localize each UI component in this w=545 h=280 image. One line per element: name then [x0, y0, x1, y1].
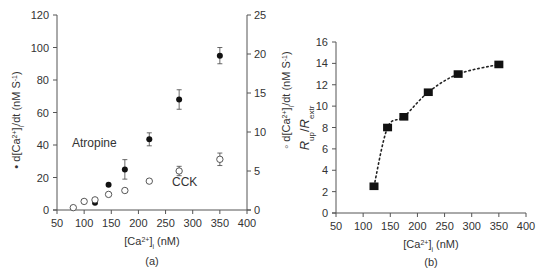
fit-curve — [374, 64, 499, 186]
y-tick-label-left: 20 — [37, 172, 49, 184]
atropine-point — [146, 136, 152, 142]
x-tick-label: 350 — [490, 220, 508, 232]
cck-point — [146, 178, 152, 184]
y-tick-label-left: 100 — [31, 42, 49, 54]
cck-point — [70, 204, 76, 210]
data-point-square — [424, 88, 433, 96]
cck-point — [217, 156, 223, 162]
data-point-square — [454, 70, 463, 78]
y-tick-label: 6 — [322, 143, 328, 155]
y-tick-label-right: 10 — [254, 126, 266, 138]
atropine-point — [217, 53, 223, 59]
figure: 0204060801001200510152025501001502002503… — [0, 0, 545, 280]
x-tick-label: 50 — [51, 217, 63, 229]
cck-point — [122, 187, 128, 193]
cck-point — [81, 198, 87, 204]
y-tick-label-right: 25 — [254, 9, 266, 21]
atropine-annotation: Atropine — [72, 136, 117, 150]
atropine-point — [176, 97, 182, 103]
x-tick-label: 50 — [330, 220, 342, 232]
panel-a: 0204060801001200510152025501001502002503… — [10, 9, 295, 267]
y-tick-label: 16 — [316, 36, 328, 48]
y-tick-label-left: 40 — [37, 139, 49, 151]
cck-point — [176, 168, 182, 174]
y-tick-label: 12 — [316, 79, 328, 91]
x-tick-label: 300 — [463, 220, 481, 232]
y-tick-label-right: 0 — [254, 204, 260, 216]
cck-point — [105, 191, 111, 197]
x-tick-label: 250 — [156, 217, 174, 229]
panel-label: (b) — [424, 256, 437, 268]
y-tick-label-left: 80 — [37, 74, 49, 86]
x-tick-label: 200 — [408, 220, 426, 232]
x-tick-label: 250 — [435, 220, 453, 232]
x-tick-label: 350 — [211, 217, 229, 229]
y-tick-label: 2 — [322, 186, 328, 198]
y-tick-label-left: 60 — [37, 107, 49, 119]
data-point-square — [383, 124, 392, 132]
y-tick-label: 14 — [316, 57, 328, 69]
x-tick-label: 400 — [517, 220, 535, 232]
y-tick-label: 10 — [316, 100, 328, 112]
y-tick-label-right: 20 — [254, 48, 266, 60]
y-tick-label-right: 5 — [254, 165, 260, 177]
right-y-axis-label: ◦ d[Ca2+]i/dt (nM S-1) — [280, 51, 295, 148]
x-axis-label: [Ca2+]i (nM) — [403, 238, 458, 253]
left-y-axis-label: • d[Ca2+]i/dt (nM S-1) — [10, 71, 25, 168]
x-tick-label: 200 — [129, 217, 147, 229]
y-tick-label-left: 0 — [43, 204, 49, 216]
x-tick-label: 150 — [381, 220, 399, 232]
y-tick-label-right: 15 — [254, 87, 266, 99]
y-tick-label: 0 — [322, 207, 328, 219]
x-tick-label: 300 — [184, 217, 202, 229]
data-point-square — [399, 113, 408, 121]
data-point-square — [494, 61, 503, 69]
y-axis-label: Rup/Rextr — [297, 105, 316, 150]
cck-point — [92, 197, 98, 203]
x-tick-label: 400 — [238, 217, 256, 229]
panel-b: 024681012141650100150200250300350400[Ca2… — [297, 36, 535, 268]
x-tick-label: 100 — [354, 220, 372, 232]
cck-annotation: CCK — [172, 175, 197, 189]
y-tick-label: 4 — [322, 164, 328, 176]
x-axis-label: [Ca2+]i (nM) — [124, 235, 179, 250]
atropine-point — [122, 166, 128, 172]
panel-label: (a) — [145, 255, 158, 267]
data-point-square — [370, 182, 379, 190]
y-tick-label-left: 120 — [31, 9, 49, 21]
y-tick-label: 8 — [322, 122, 328, 134]
x-tick-label: 150 — [102, 217, 120, 229]
x-tick-label: 100 — [75, 217, 93, 229]
atropine-point — [106, 182, 112, 188]
